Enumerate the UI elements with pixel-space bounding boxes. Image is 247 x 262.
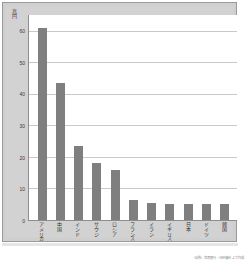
plot-area — [28, 15, 237, 221]
bar-slot — [70, 15, 88, 220]
bar-slot — [216, 15, 234, 220]
x-label-iran: イラン — [148, 222, 154, 236]
x-label-germany: ドイツ — [203, 222, 209, 236]
x-label-america: アメリカ — [38, 222, 44, 241]
bar-slot — [161, 15, 179, 220]
bar-france[interactable] — [129, 200, 138, 220]
y-tick-50: 50 — [19, 60, 25, 65]
bar-japan[interactable] — [184, 204, 193, 220]
bar-slot — [143, 15, 161, 220]
bar-america[interactable] — [38, 28, 47, 220]
y-axis-tick-labels: 0 10 20 30 40 50 60 — [8, 15, 27, 221]
bar-germany[interactable] — [202, 204, 211, 220]
bar-slot — [179, 15, 197, 220]
x-label-saudi: サウジ — [93, 222, 99, 236]
chart-page: 兆円 0 10 20 30 40 50 60 — [0, 0, 247, 262]
bar-saudi[interactable] — [92, 163, 101, 220]
x-label-france: フランス — [130, 222, 136, 241]
y-tick-40: 40 — [19, 92, 25, 97]
bar-slot — [197, 15, 215, 220]
x-label-korea: 韓国 — [222, 222, 228, 232]
bar-slot — [106, 15, 124, 220]
x-label-china: 中国 — [57, 222, 63, 232]
x-label-russia: ロシア — [112, 222, 118, 236]
bar-russia[interactable] — [111, 170, 120, 220]
bar-korea[interactable] — [220, 204, 229, 220]
y-tick-30: 30 — [19, 123, 25, 128]
bar-slot — [124, 15, 142, 220]
chart-card-inner: 兆円 0 10 20 30 40 50 60 — [6, 6, 233, 238]
bar-slot — [51, 15, 69, 220]
x-label-japan: 日本 — [185, 222, 191, 232]
x-label-uk: イギリス — [167, 222, 173, 241]
bar-slot — [33, 15, 51, 220]
bar-china[interactable] — [56, 83, 65, 220]
x-label-india: インド — [75, 222, 81, 236]
bar-slot — [88, 15, 106, 220]
bar-iran[interactable] — [147, 203, 156, 220]
bar-uk[interactable] — [165, 204, 174, 220]
y-tick-0: 0 — [22, 219, 25, 224]
bar-series — [29, 15, 237, 220]
card-shadow — [2, 243, 238, 246]
y-tick-20: 20 — [19, 155, 25, 160]
chart-card: 兆円 0 10 20 30 40 50 60 — [2, 2, 237, 242]
bar-india[interactable] — [74, 146, 83, 220]
y-tick-60: 60 — [19, 28, 25, 33]
source-note: （出所）世界銀行・IMF資料より作成 — [192, 255, 244, 260]
y-tick-10: 10 — [19, 187, 25, 192]
